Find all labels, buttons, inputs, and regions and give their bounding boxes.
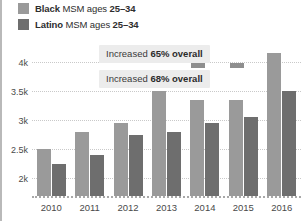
y-axis-tick-3.5k: 3.5k	[11, 87, 32, 97]
y-axis-tick-2.5k: 2.5k	[11, 145, 32, 155]
legend-swatch-black-msm	[18, 3, 29, 14]
plot-area: 4k3.5k3k2.5k2k	[32, 45, 301, 196]
x-axis-label-2012: 2012	[109, 199, 147, 219]
legend-label-latino-msm: Latino MSM ages 25–34	[35, 19, 139, 30]
legend-item-latino-msm: Latino MSM ages 25–34	[18, 19, 139, 30]
bar-2016-series-2	[282, 91, 296, 196]
bar-group-2010	[32, 45, 70, 196]
bar-2016-series-1	[267, 53, 281, 196]
annotation-65-value: 65% overall	[150, 48, 202, 59]
bar-groups	[32, 45, 301, 196]
bar-group-2013	[147, 45, 185, 196]
bar-2010-series-2	[52, 164, 66, 196]
bar-group-2012	[109, 45, 147, 196]
annotation-68-percent: Increased 68% overall	[99, 70, 210, 88]
annotation-marker-dash-right	[230, 63, 244, 68]
bar-group-2011	[70, 45, 108, 196]
x-axis-label-2011: 2011	[70, 199, 108, 219]
bar-2014-series-2	[205, 123, 219, 196]
x-axis-label-2016: 2016	[263, 199, 301, 219]
x-axis-label-2014: 2014	[186, 199, 224, 219]
bar-2013-series-1	[152, 91, 166, 196]
annotation-marker-dash-left	[191, 63, 205, 68]
x-axis-label-2010: 2010	[32, 199, 70, 219]
bar-chart: Black MSM ages 25–34 Latino MSM ages 25–…	[0, 0, 301, 221]
y-axis-tick-4k: 4k	[18, 58, 32, 68]
bar-group-2016	[263, 45, 301, 196]
bar-2011-series-2	[90, 155, 104, 196]
axis-baseline	[32, 196, 301, 198]
x-axis-label-2013: 2013	[147, 199, 185, 219]
legend-label-black-msm: Black MSM ages 25–34	[35, 3, 135, 14]
bar-2012-series-1	[114, 123, 128, 196]
legend-label-latino-msm-ages: 25–34	[113, 19, 139, 30]
bar-2010-series-1	[37, 149, 51, 196]
annotation-65-percent: Increased 65% overall	[99, 45, 210, 63]
legend-label-latino-msm-group: Latino	[35, 19, 63, 30]
x-axis-label-2015: 2015	[224, 199, 262, 219]
chart-legend: Black MSM ages 25–34 Latino MSM ages 25–…	[18, 3, 139, 30]
x-axis-labels: 2010201120122013201420152016	[32, 199, 301, 219]
legend-label-black-msm-ages: 25–34	[110, 3, 136, 14]
legend-label-latino-msm-mid: MSM ages	[63, 19, 113, 30]
bar-2012-series-2	[129, 135, 143, 196]
annotation-68-prefix: Increased	[106, 73, 150, 84]
annotation-68-value: 68% overall	[150, 73, 202, 84]
y-axis-tick-2k: 2k	[18, 174, 32, 184]
annotation-65-prefix: Increased	[106, 48, 150, 59]
legend-swatch-latino-msm	[18, 19, 29, 30]
legend-label-black-msm-mid: MSM ages	[60, 3, 110, 14]
bar-2015-series-2	[244, 117, 258, 196]
y-axis-tick-3k: 3k	[18, 116, 32, 126]
legend-item-black-msm: Black MSM ages 25–34	[18, 3, 139, 14]
bar-2014-series-1	[190, 100, 204, 196]
bar-2013-series-2	[167, 132, 181, 196]
bar-2015-series-1	[229, 100, 243, 196]
bar-2011-series-1	[75, 132, 89, 196]
legend-label-black-msm-group: Black	[35, 3, 60, 14]
